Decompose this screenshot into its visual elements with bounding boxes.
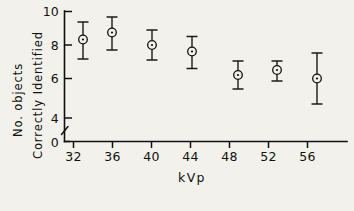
- x-tick-label-32: 32: [65, 149, 81, 164]
- data-point-group-4: [187, 37, 198, 69]
- x-axis-title: kVp: [178, 170, 206, 185]
- data-marker-center-dot-4: [191, 50, 193, 52]
- data-marker-center-dot-1: [82, 38, 84, 40]
- data-marker-center-dot-6: [276, 69, 278, 71]
- y-tick-label-8: 8: [51, 38, 59, 53]
- y-tick-label-0: 0: [51, 135, 59, 150]
- x-tick-label-48: 48: [221, 149, 237, 164]
- data-point-group-1: [78, 22, 89, 59]
- y-axis-title-line1: No. objects: [11, 63, 25, 137]
- x-tick-label-40: 40: [143, 149, 159, 164]
- x-tick-label-36: 36: [104, 149, 120, 164]
- chart-figure: 10 8 6 4 0 32 36 40 44 48 52 56 kVp No. …: [0, 0, 354, 211]
- data-marker-center-dot-2: [111, 31, 113, 33]
- data-marker-center-dot-5: [237, 74, 239, 76]
- x-tick-label-52: 52: [260, 149, 276, 164]
- y-tick-label-10: 10: [43, 4, 59, 19]
- x-axis-ticks: [74, 142, 308, 149]
- data-point-group-3: [147, 30, 158, 60]
- data-point-group-7: [312, 53, 323, 104]
- y-tick-label-4: 4: [51, 111, 59, 126]
- data-point-group-2: [107, 17, 118, 50]
- x-tick-label-56: 56: [299, 149, 315, 164]
- y-axis-ticks: [65, 12, 73, 142]
- y-axis-title-line2: Correctly Identified: [31, 31, 45, 159]
- data-marker-center-dot-7: [316, 77, 318, 79]
- scatter-plot-with-error-bars: 10 8 6 4 0 32 36 40 44 48 52 56 kVp No. …: [0, 0, 354, 211]
- data-point-group-5: [233, 61, 244, 89]
- x-tick-label-44: 44: [182, 149, 198, 164]
- data-point-group-6: [272, 61, 283, 81]
- data-marker-center-dot-3: [151, 44, 153, 46]
- y-tick-label-6: 6: [51, 71, 59, 86]
